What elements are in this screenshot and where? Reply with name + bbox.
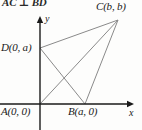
quadrilateral-segments xyxy=(40,20,118,104)
figure-header-note: AC ⊥ BD xyxy=(2,0,47,8)
point-label-c: C(b, b) xyxy=(96,1,126,12)
point-label-d: D(0, a) xyxy=(1,42,31,53)
coordinate-geometry-figure: AC ⊥ BD C(b, b) D(0, a) A(0, 0) B(a, 0) … xyxy=(0,0,142,130)
point-label-a: A(0, 0) xyxy=(1,106,30,117)
segment-d-b xyxy=(40,48,85,104)
y-axis-arrowhead xyxy=(37,16,43,23)
segment-d-c xyxy=(40,20,118,48)
y-axis-label: y xyxy=(45,14,49,24)
segment-b-c xyxy=(85,20,118,104)
x-axis-label: x xyxy=(129,108,133,118)
point-label-b: B(a, 0) xyxy=(68,106,97,117)
